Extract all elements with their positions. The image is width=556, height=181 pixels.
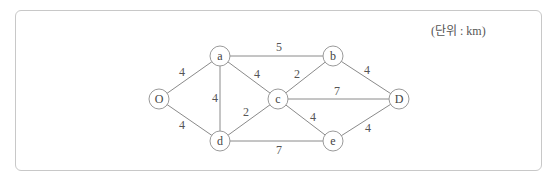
node-label: d xyxy=(217,134,223,148)
node-b: b xyxy=(323,46,343,66)
node-label: O xyxy=(155,92,164,106)
edge-weight-d-c: 2 xyxy=(243,105,249,119)
node-label: c xyxy=(275,92,280,106)
edge-weight-e-D: 4 xyxy=(365,121,371,135)
edge-weight-c-e: 4 xyxy=(310,110,316,124)
node-label: b xyxy=(330,49,336,63)
edge-weight-a-d: 4 xyxy=(212,91,218,105)
edge-O-d xyxy=(159,99,220,141)
graph-canvas: 444542727444 OabcDde xyxy=(0,0,556,181)
node-D: D xyxy=(389,89,409,109)
node-label: a xyxy=(217,49,223,63)
node-label: D xyxy=(395,92,404,106)
edge-weight-O-a: 4 xyxy=(179,65,185,79)
edge-O-a xyxy=(159,56,220,99)
edge-weight-b-D: 4 xyxy=(364,63,370,77)
edge-weight-d-e: 7 xyxy=(276,143,282,157)
node-e: e xyxy=(323,131,343,151)
node-c: c xyxy=(268,89,288,109)
edge-weight-a-b: 5 xyxy=(276,40,282,54)
edge-weight-c-D: 7 xyxy=(334,84,340,98)
node-d: d xyxy=(210,131,230,151)
edge-weight-a-c: 4 xyxy=(254,67,260,81)
edge-weight-c-b: 2 xyxy=(294,67,300,81)
node-O: O xyxy=(149,89,169,109)
edge-weight-O-d: 4 xyxy=(179,118,185,132)
node-a: a xyxy=(210,46,230,66)
edge-a-c xyxy=(220,56,278,99)
edge-d-c xyxy=(220,99,278,141)
node-label: e xyxy=(330,134,335,148)
